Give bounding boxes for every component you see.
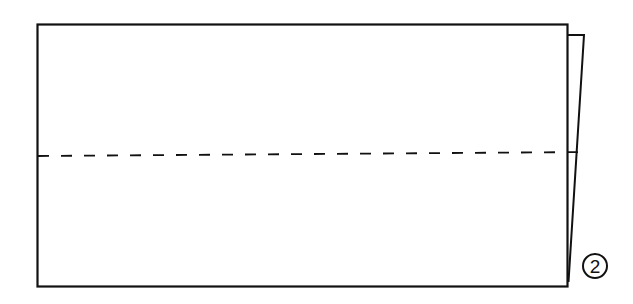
fold-line-dashed (38, 152, 588, 156)
paper-flap (568, 35, 585, 282)
step-number-badge: 2 (582, 253, 608, 279)
origami-diagram (0, 0, 633, 304)
step-number: 2 (590, 257, 601, 276)
